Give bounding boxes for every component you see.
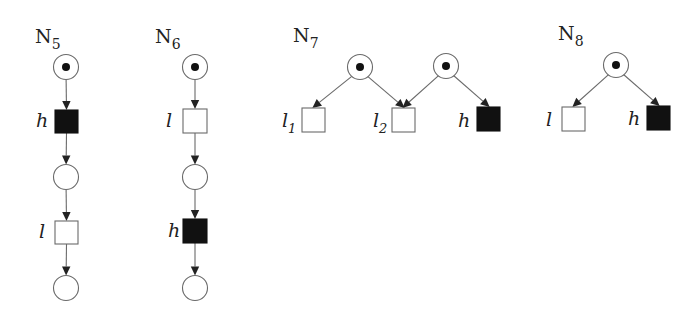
transition-label: l bbox=[546, 108, 552, 130]
net-title: N8 bbox=[558, 22, 584, 49]
low-transition-box bbox=[302, 108, 325, 132]
token-icon bbox=[612, 61, 620, 69]
marked-place bbox=[54, 55, 79, 80]
place bbox=[183, 165, 208, 190]
transition-label: h bbox=[168, 219, 180, 241]
arrowhead-icon bbox=[62, 212, 70, 221]
token-icon bbox=[356, 63, 364, 71]
arc bbox=[579, 75, 608, 101]
place-circle-icon bbox=[54, 276, 79, 301]
arc bbox=[454, 76, 483, 101]
arrowhead-icon bbox=[191, 210, 199, 219]
marked-place bbox=[348, 55, 373, 80]
transition-high: h bbox=[168, 219, 207, 243]
net-n6: N6lh bbox=[155, 25, 208, 301]
transition-label: h bbox=[458, 109, 470, 131]
arc bbox=[319, 76, 351, 102]
transition-low: l1 bbox=[282, 108, 325, 136]
transition-low: l2 bbox=[373, 108, 415, 136]
place-circle-icon bbox=[183, 276, 208, 301]
transition-label: l bbox=[39, 220, 45, 242]
place-circle-icon bbox=[54, 165, 79, 190]
marked-place bbox=[183, 55, 208, 80]
net-title: N5 bbox=[35, 25, 61, 52]
net-title: N6 bbox=[155, 25, 181, 52]
high-transition-box bbox=[477, 107, 500, 131]
low-transition-box bbox=[562, 107, 585, 131]
arrowhead-icon bbox=[62, 101, 70, 110]
transition-high: h bbox=[628, 106, 670, 130]
marked-place bbox=[434, 54, 459, 79]
arrowhead-icon bbox=[191, 100, 199, 109]
arrowhead-icon bbox=[62, 266, 70, 275]
token-icon bbox=[191, 63, 199, 71]
high-transition-box bbox=[183, 219, 207, 243]
transition-label: l1 bbox=[282, 109, 296, 136]
transition-label: l2 bbox=[373, 109, 387, 136]
transition-high: h bbox=[458, 107, 500, 131]
transition-label: h bbox=[628, 107, 640, 129]
place bbox=[54, 165, 79, 190]
high-transition-box bbox=[647, 106, 670, 130]
net-n7: N7l1l2h bbox=[282, 24, 500, 136]
transition-label: l bbox=[166, 109, 172, 131]
transition-high: h bbox=[36, 109, 78, 133]
marked-place bbox=[604, 53, 629, 78]
token-icon bbox=[442, 62, 450, 70]
arrowhead-icon bbox=[191, 156, 199, 165]
arc bbox=[409, 76, 438, 102]
low-transition-box bbox=[183, 109, 207, 133]
petri-net-figure: N5hlN6lhN7l1l2hN8lh bbox=[0, 0, 696, 323]
place bbox=[183, 276, 208, 301]
place-circle-icon bbox=[183, 165, 208, 190]
transition-low: l bbox=[39, 220, 78, 244]
arrowhead-icon bbox=[312, 99, 322, 108]
token-icon bbox=[62, 63, 70, 71]
transition-low: l bbox=[166, 109, 207, 133]
place bbox=[54, 276, 79, 301]
low-transition-box bbox=[392, 108, 415, 132]
arrowhead-icon bbox=[191, 267, 199, 276]
low-transition-box bbox=[55, 221, 78, 244]
arc bbox=[368, 77, 398, 102]
transition-low: l bbox=[546, 107, 585, 131]
net-n5: N5hl bbox=[35, 25, 79, 301]
net-title: N7 bbox=[293, 24, 319, 51]
arrowhead-icon bbox=[62, 155, 70, 164]
arc bbox=[624, 75, 653, 100]
transition-label: h bbox=[36, 109, 48, 131]
high-transition-box bbox=[55, 110, 78, 133]
nets-layer: N5hlN6lhN7l1l2hN8lh bbox=[35, 22, 670, 301]
net-n8: N8lh bbox=[546, 22, 670, 131]
